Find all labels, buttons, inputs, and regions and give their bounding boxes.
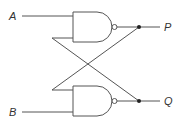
inversion-bubble-bottom: [112, 99, 117, 104]
output-label-q: Q: [164, 96, 173, 107]
input-label-a: A: [9, 11, 16, 22]
junction-dot-q: [137, 99, 141, 103]
junction-dot-p: [137, 25, 141, 29]
inversion-bubble-top: [112, 25, 117, 30]
input-label-b: B: [9, 107, 16, 118]
latch-diagram: [0, 0, 184, 128]
output-label-p: P: [164, 22, 171, 33]
nand-gate-bottom: [73, 86, 112, 116]
nand-gate-top: [73, 12, 112, 42]
